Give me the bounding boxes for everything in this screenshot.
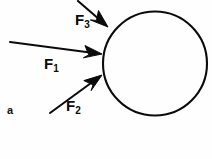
force-label-f2-subscript: 2 [75,105,81,116]
force-label-f3-subscript: 3 [84,19,90,30]
force-label-f2: F2 [66,98,81,113]
force-label-f3-symbol: F [75,11,84,28]
panel-label: a [7,105,13,116]
force-label-f1: F1 [44,56,59,71]
figure-vector-canvas [0,0,212,159]
force-label-f1-subscript: 1 [53,63,59,74]
force-label-f3: F3 [75,12,90,27]
force-label-f1-symbol: F [44,55,53,72]
force-diagram-figure: F1 F2 F3 a [0,0,212,159]
force-label-f2-symbol: F [66,97,75,114]
